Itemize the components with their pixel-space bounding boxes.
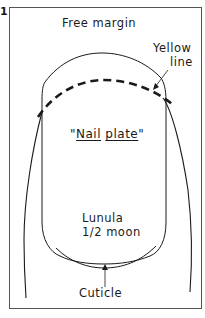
label-yellow-line-2: line <box>170 57 193 69</box>
arrowhead-icon <box>102 264 108 270</box>
nail-plate-word1: Nail <box>76 127 101 141</box>
yellow-line-pointer <box>155 70 168 87</box>
label-cuticle: Cuticle <box>79 288 122 300</box>
arrowhead-icon <box>153 83 159 90</box>
label-lunula: Lunula <box>82 213 123 225</box>
yellow-line <box>38 80 172 117</box>
label-free-margin: Free margin <box>62 18 136 30</box>
figure-number: 1 <box>0 6 8 17</box>
label-half-moon: 1/2 moon <box>82 227 141 239</box>
quote-close: " <box>138 127 144 141</box>
label-nail-plate: "Nail plate" <box>70 128 144 140</box>
nail-plate-word2: plate <box>105 127 138 141</box>
cuticle-fold <box>56 246 156 268</box>
label-yellow-line-1: Yellow <box>153 43 191 55</box>
finger-outline-right <box>163 98 191 292</box>
finger-outline-left <box>24 112 42 298</box>
